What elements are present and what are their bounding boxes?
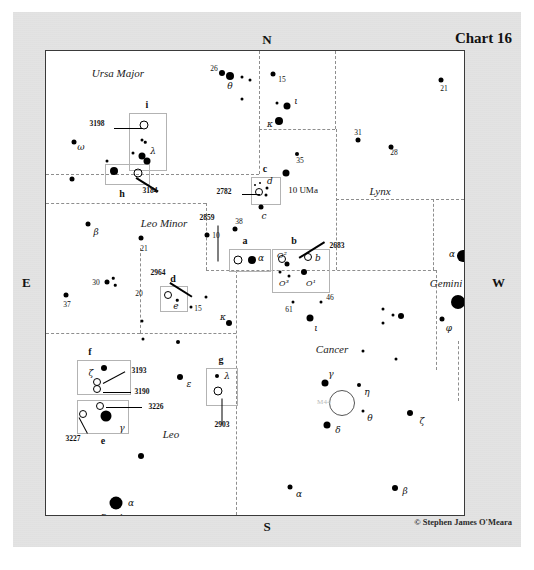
greek-label: β xyxy=(402,487,407,496)
greek-label: e xyxy=(173,302,178,311)
star-dot xyxy=(86,222,91,227)
greek-label: b xyxy=(315,254,321,263)
star-dot xyxy=(219,70,225,76)
boundary-line xyxy=(259,51,260,129)
star-gamma-cnc xyxy=(322,380,329,387)
star-dot xyxy=(271,72,276,77)
boundary-line xyxy=(433,199,434,270)
compass-east: E xyxy=(22,275,31,291)
star-dot xyxy=(320,301,323,304)
greek-label: Ο³ xyxy=(279,280,289,288)
number-label: 21 xyxy=(140,245,148,253)
star-dot xyxy=(362,410,365,413)
star-dot xyxy=(141,320,144,323)
star-dot xyxy=(176,340,180,344)
star-dot xyxy=(110,167,118,175)
star-kappa-leo xyxy=(226,320,232,326)
star-dot xyxy=(144,158,151,165)
greek-label: d xyxy=(267,177,273,186)
galaxy-ring-3227 xyxy=(79,410,87,418)
greek-label: α xyxy=(128,499,134,508)
star-pollux xyxy=(451,295,465,309)
greek-label: φ xyxy=(446,324,452,333)
star-dot xyxy=(382,308,385,311)
star-dot xyxy=(70,177,75,182)
number-label: 46 xyxy=(326,294,334,302)
star-delta-cnc xyxy=(324,422,331,429)
number-label: 61 xyxy=(285,306,293,314)
finder-box-label: c xyxy=(263,164,267,174)
star-dot xyxy=(105,280,110,285)
star-dot xyxy=(138,453,144,459)
galaxy-ring-3184 xyxy=(134,169,143,178)
greek-label: ω xyxy=(77,143,84,152)
ngc-label: 2859 xyxy=(200,214,215,222)
boundary-line xyxy=(46,174,259,175)
galaxy-ring-2964 xyxy=(164,291,172,299)
number-label: 15 xyxy=(194,305,202,313)
star-dot xyxy=(307,315,314,322)
number-label: 28 xyxy=(390,149,398,157)
chart-title: Chart 16 xyxy=(455,30,512,47)
ngc-label: 2683 xyxy=(330,242,345,250)
galaxy-ring-3226 xyxy=(96,402,104,410)
constellation-label: Ursa Major xyxy=(92,68,144,79)
constellation-label: Gemini xyxy=(430,278,462,289)
star-dot xyxy=(356,138,361,143)
ngc-label: 2903 xyxy=(215,421,230,429)
greek-label: α xyxy=(258,254,264,263)
star-dot xyxy=(288,275,291,278)
star-dot xyxy=(248,256,256,264)
boundary-line xyxy=(259,129,260,174)
star-dot xyxy=(382,322,385,325)
greek-label: α xyxy=(296,490,302,499)
star-dot xyxy=(233,227,238,232)
star-name-label: Regulus xyxy=(101,513,131,517)
constellation-label: Cancer xyxy=(316,344,348,355)
boundary-line xyxy=(140,333,236,334)
leader-line-3198 xyxy=(114,128,142,129)
star-dot xyxy=(301,269,307,275)
star-dot xyxy=(64,293,69,298)
ngc-label: 3184 xyxy=(143,187,158,195)
star-dot xyxy=(439,78,444,83)
greek-label: λ xyxy=(224,372,230,381)
star-dot xyxy=(283,170,290,177)
star-dot xyxy=(241,76,244,79)
number-label: 31 xyxy=(354,129,362,137)
boundary-line xyxy=(335,51,336,129)
star-dot xyxy=(132,152,135,155)
greek-label: c xyxy=(261,212,266,221)
number-label: 35 xyxy=(296,157,304,165)
leader-line-2782 xyxy=(242,194,260,195)
compass-west: W xyxy=(492,275,505,291)
finder-box-label: b xyxy=(291,236,297,246)
greek-label: ζ xyxy=(420,417,425,426)
ngc-label: 3226 xyxy=(149,403,164,411)
constellation-label: Lynx xyxy=(369,186,390,197)
star-dot xyxy=(144,141,147,144)
ngc-label: 3198 xyxy=(90,120,105,128)
star-chart-page: N S E W Chart 16 © Stephen James O'Meara xyxy=(0,0,534,570)
star-dot xyxy=(190,306,193,309)
number-label: 37 xyxy=(63,301,71,309)
star-dot xyxy=(259,205,264,210)
greek-label: β xyxy=(93,228,98,237)
compass-north: N xyxy=(0,32,534,48)
number-label: 15 xyxy=(278,76,286,84)
greek-label: η xyxy=(364,388,369,397)
star-dot xyxy=(357,383,361,387)
galaxy-ring-2859 xyxy=(234,256,243,265)
open-cluster-m44 xyxy=(329,390,355,416)
ngc-label: 3227 xyxy=(66,435,81,443)
star-dot xyxy=(392,314,395,317)
star-dot xyxy=(101,411,112,422)
star-dot xyxy=(276,102,279,105)
star-dot xyxy=(288,485,293,490)
star-dot xyxy=(112,277,115,280)
star-dot xyxy=(241,98,244,101)
finder-box-label: g xyxy=(219,355,224,365)
star-regulus xyxy=(110,497,123,510)
boundary-line xyxy=(259,129,335,130)
star-dot xyxy=(279,271,282,274)
